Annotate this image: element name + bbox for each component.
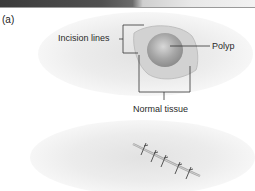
polyp [147, 33, 183, 67]
diagram-drawing [0, 0, 255, 191]
sutured-incision [133, 143, 200, 179]
polyp-label: Polyp [212, 41, 235, 51]
normal-tissue-label: Normal tissue [133, 104, 188, 114]
incision-lines-label: Incision lines [58, 33, 110, 43]
